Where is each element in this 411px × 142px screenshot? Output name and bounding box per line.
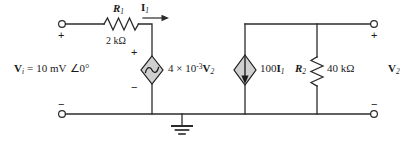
terminal-left-top-sign: + [58,30,64,41]
i1-subscript: 1 [145,6,149,15]
resistor-r2-zigzag [311,57,323,86]
r1-subscript: 1 [120,7,124,16]
v2-subscript: 2 [396,67,400,76]
label-cccs-value: 100I1 [260,63,285,75]
label-r2-name: R2 [295,63,306,75]
terminal-left-bottom-sign: − [58,99,64,110]
label-vcvs-value: 4 × 10-3V2 [168,63,214,75]
label-r2-value: 40 kΩ [327,63,354,74]
vcvs-coefficient: 4 × 10 [168,62,196,74]
vcvs-minus-sign: − [131,82,137,93]
v1-symbol: V [14,62,22,74]
terminal-right-bottom [371,111,378,118]
terminal-left-bottom [59,111,66,118]
current-i1-arrow-head [162,15,170,21]
label-r1-name: R1 [113,3,124,15]
terminal-left-top [59,21,66,28]
v2-symbol: V [388,62,396,74]
label-output-v2: V2 [388,63,400,75]
r2-subscript: 2 [302,67,306,76]
terminal-right-top [371,21,378,28]
wire-r1-to-vcvs [139,24,153,56]
resistor-r1-zigzag [104,18,139,30]
label-source-v1: Vi=10 mV∠0° [14,63,89,75]
cccs-coefficient: 100 [260,62,277,74]
label-r1-value: 2 kΩ [106,36,126,46]
cccs-variable-sub: 1 [281,67,285,76]
v1-angle: ∠0° [70,62,90,74]
v1-equals: = [27,62,33,74]
label-current-i1: I1 [141,2,149,14]
v1-magnitude: 10 mV [36,62,66,74]
v1-subscript: i [22,67,24,76]
vcvs-variable-sub: 2 [210,67,214,76]
terminal-right-bottom-sign: − [371,99,377,110]
terminal-right-top-sign: + [371,30,377,41]
vcvs-plus-sign: + [131,47,137,58]
circuit-diagram: R1 2 kΩ I1 Vi=10 mV∠0° + − 4 × 10-3V2 10… [0,0,411,142]
